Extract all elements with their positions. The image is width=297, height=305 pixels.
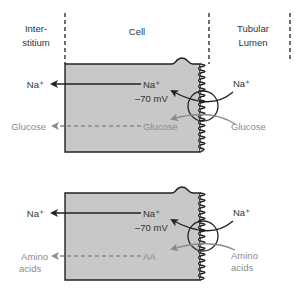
panel-amino-acids: Na⁺ Na⁺ –70 mV Na⁺ Amino acids AA Amino … [19, 187, 258, 280]
glucose-lumen-label: Glucose [231, 121, 266, 132]
na-interstitium-label: Na⁺ [27, 79, 44, 90]
amino-acids-interstitium-label: Amino [21, 251, 48, 262]
lumen-label: Tubular [237, 23, 269, 34]
glucose-interstitium-label: Glucose [11, 121, 46, 132]
cell-body [65, 187, 200, 280]
na-interstitium-label: Na⁺ [27, 208, 44, 219]
lumen-label-2: Lumen [238, 37, 267, 48]
membrane-potential-label: –70 mV [135, 222, 168, 233]
interstitium-label: Inter- [25, 23, 47, 34]
na-lumen-label: Na⁺ [233, 207, 250, 218]
panel-glucose: Na⁺ Na⁺ –70 mV Na⁺ Glucose Glucose Gluco… [11, 58, 266, 152]
interstitium-label-2: stitium [22, 37, 50, 48]
amino-acids-interstitium-label-2: acids [19, 263, 41, 274]
amino-acids-lumen-label: Amino [231, 250, 258, 261]
aa-cell-label: AA [143, 251, 156, 262]
cotransport-diagram: Inter- stitium Cell Tubular Lumen Na⁺ Na… [0, 0, 297, 305]
na-lumen-label: Na⁺ [233, 78, 250, 89]
glucose-cell-label: Glucose [143, 121, 178, 132]
amino-acids-lumen-label-2: acids [231, 262, 253, 273]
na-cell-label: Na⁺ [143, 79, 160, 90]
cell-body [65, 58, 200, 152]
membrane-potential-label: –70 mV [135, 93, 168, 104]
na-cell-label: Na⁺ [143, 208, 160, 219]
cell-label: Cell [129, 26, 145, 37]
